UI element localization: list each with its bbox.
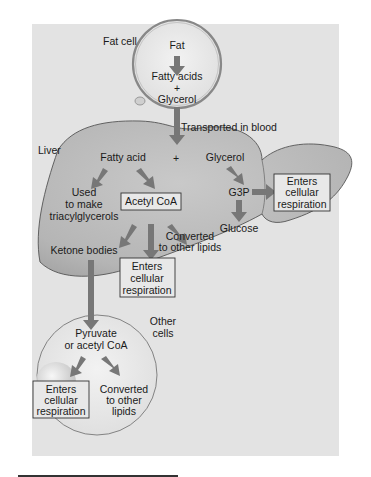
other-enters-3: respiration <box>36 405 85 417</box>
enters-acetyl-3: respiration <box>122 284 171 296</box>
g3p: G3P <box>228 186 249 198</box>
other-cells-line2: cells <box>152 327 173 339</box>
enters-g3p-2: cellular <box>285 186 319 198</box>
other-converted-3: lipids <box>112 405 136 417</box>
converted-line2: to other lipids <box>159 241 221 253</box>
acetyl-coa: Acetyl CoA <box>125 195 177 207</box>
liver-glycerol: Glycerol <box>206 151 245 163</box>
enters-g3p-3: respiration <box>277 198 326 210</box>
fat-label: Fat <box>169 39 184 51</box>
fatty-acids-label: Fatty acids <box>152 70 203 82</box>
ketone-bodies: Ketone bodies <box>50 244 117 256</box>
glucose: Glucose <box>220 222 259 234</box>
other-cells-line1: Other <box>150 315 177 327</box>
used-line2: to make <box>65 198 103 210</box>
liver-plus: + <box>173 152 179 164</box>
pyruvate-line2: or acetyl CoA <box>64 339 127 351</box>
enters-acetyl-1: Enters <box>132 260 162 272</box>
enters-acetyl-2: cellular <box>130 272 164 284</box>
fat-cell-label: Fat cell <box>103 35 137 47</box>
fat-metabolism-diagram: Fat cell Fat Fatty acids + Glycerol Tran… <box>0 0 371 477</box>
used-line1: Used <box>72 186 97 198</box>
used-line3: triacylglycerols <box>50 210 119 222</box>
transport-label: Transported in blood <box>181 121 277 133</box>
liver-label: Liver <box>38 144 61 156</box>
pyruvate-line1: Pyruvate <box>75 327 117 339</box>
liver-fatty-acid: Fatty acid <box>100 151 146 163</box>
glycerol-label: Glycerol <box>158 93 197 105</box>
